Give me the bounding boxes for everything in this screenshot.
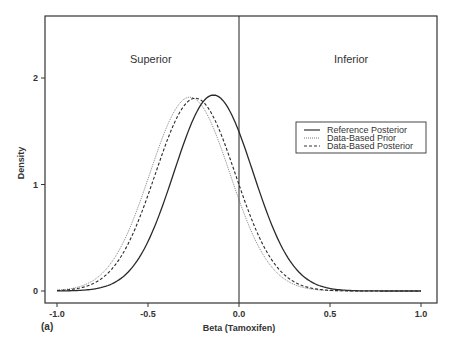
y-tick-label: 2 [33, 73, 38, 83]
y-axis: 012 [33, 73, 45, 296]
legend-label-data-based-posterior: Data-Based Posterior [327, 141, 413, 151]
region-label-superior: Superior [130, 53, 172, 65]
x-axis: -1.0-0.50.00.51.0 [49, 303, 427, 319]
panel-label: (a) [41, 321, 53, 332]
x-tick-label: -1.0 [49, 309, 65, 319]
x-tick-label: 1.0 [415, 309, 428, 319]
x-tick-label: 0.0 [233, 309, 246, 319]
y-tick-label: 0 [33, 286, 38, 296]
legend: Reference Posterior Data-Based Prior Dat… [296, 122, 426, 153]
region-label-inferior: Inferior [334, 53, 369, 65]
x-axis-label: Beta (Tamoxifen) [203, 323, 275, 333]
y-axis-label: Density [16, 147, 26, 180]
x-tick-label: 0.5 [324, 309, 337, 319]
plot-frame [45, 16, 437, 303]
density-chart: 012 -1.0-0.50.00.51.0 Superior Inferior … [0, 0, 451, 351]
x-tick-label: -0.5 [140, 309, 156, 319]
y-tick-label: 1 [33, 180, 38, 190]
